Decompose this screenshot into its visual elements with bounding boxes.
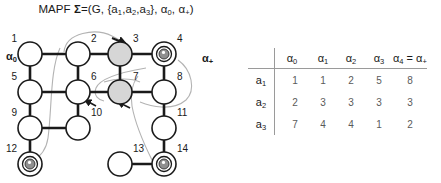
graph-panel: α0 α+	[0, 22, 236, 183]
graph-node-14[interactable]: 14	[152, 143, 189, 176]
table-row-label-a3: a3	[248, 113, 275, 135]
node-label: 1	[11, 33, 17, 44]
mapf-figure: MAPF Σ=(G, {a1,a2,a3}, α0, α+) α0 α+	[0, 0, 441, 183]
agent-token	[159, 159, 169, 169]
agent-token	[25, 159, 35, 169]
agent-token	[159, 49, 169, 59]
configuration-table-panel: α0α1α2α3α4 = α+ a111258a223333a374412	[248, 48, 438, 135]
node-circle	[152, 80, 176, 104]
table-body: a111258a223333a374412	[248, 69, 427, 136]
node-circle	[18, 116, 42, 140]
node-circle	[108, 152, 132, 176]
node-circle	[18, 80, 42, 104]
table-cell-a2-0: 2	[275, 91, 310, 113]
table-cell-a2-1: 3	[309, 91, 337, 113]
node-circle	[66, 116, 90, 140]
table-col-header-0: α0	[275, 48, 310, 69]
table-cell-a1-4: 8	[393, 69, 427, 92]
table-row-label-a2: a2	[248, 91, 275, 113]
table-cell-a2-3: 3	[365, 91, 393, 113]
node-label: 14	[177, 143, 189, 154]
node-circle	[66, 80, 90, 104]
node-label: 7	[133, 71, 139, 82]
graph-node-5[interactable]: 5	[11, 71, 42, 104]
table-cell-a3-2: 4	[337, 113, 365, 135]
node-label: 11	[177, 107, 188, 118]
node-label: 9	[11, 107, 17, 118]
node-label: 8	[177, 71, 183, 82]
table-cell-a3-3: 1	[365, 113, 393, 135]
node-label: 6	[91, 71, 97, 82]
configuration-table: α0α1α2α3α4 = α+ a111258a223333a374412	[248, 48, 427, 135]
node-label: 5	[11, 71, 17, 82]
table-col-header-4: α4 = α+	[393, 48, 427, 69]
agent-token-highlight	[162, 161, 165, 164]
graph-node-6[interactable]: 6	[66, 71, 97, 104]
table-cell-a2-4: 3	[393, 91, 427, 113]
graph-node-8[interactable]: 8	[152, 71, 183, 104]
graph-node-2[interactable]: 2	[66, 33, 97, 66]
node-label: 2	[91, 33, 97, 44]
graph-node-10[interactable]: 10	[66, 107, 103, 140]
table-cell-a3-1: 4	[309, 113, 337, 135]
table-header-row: α0α1α2α3α4 = α+	[248, 48, 427, 69]
node-circle	[66, 42, 90, 66]
table-row: a223333	[248, 91, 427, 113]
node-circle	[108, 80, 132, 104]
table-cell-a1-1: 1	[309, 69, 337, 92]
graph-node-11[interactable]: 11	[152, 107, 188, 140]
graph-node-12[interactable]: 12	[6, 143, 42, 176]
node-label: 3	[133, 33, 139, 44]
figure-title: MAPF Σ=(G, {a1,a2,a3}, α0, α+)	[0, 3, 232, 15]
table-col-header-1: α1	[309, 48, 337, 69]
agent-token-highlight	[162, 51, 165, 54]
table-corner-cell	[248, 48, 275, 69]
table-cell-a3-0: 7	[275, 113, 310, 135]
node-label: 12	[6, 143, 18, 154]
table-cell-a1-2: 2	[337, 69, 365, 92]
graph-node-9[interactable]: 9	[11, 107, 42, 140]
node-circle	[18, 42, 42, 66]
table-row: a374412	[248, 113, 427, 135]
table-cell-a3-4: 2	[393, 113, 427, 135]
graph-node-1[interactable]: 1	[11, 33, 42, 66]
graph-svg: 1234567891011121314	[0, 22, 236, 183]
node-label: 4	[177, 33, 183, 44]
node-label: 10	[91, 107, 103, 118]
node-label: 13	[133, 143, 145, 154]
table-cell-a1-3: 5	[365, 69, 393, 92]
table-row-label-a1: a1	[248, 69, 275, 92]
graph-node-4[interactable]: 4	[152, 33, 183, 66]
table-cell-a2-2: 3	[337, 91, 365, 113]
table-cell-a1-0: 1	[275, 69, 310, 92]
node-circle	[152, 116, 176, 140]
table-col-header-2: α2	[337, 48, 365, 69]
node-circle	[108, 42, 132, 66]
agent-token-highlight	[28, 161, 31, 164]
table-row: a111258	[248, 69, 427, 92]
table-col-header-3: α3	[365, 48, 393, 69]
graph-node-13[interactable]: 13	[108, 143, 145, 176]
